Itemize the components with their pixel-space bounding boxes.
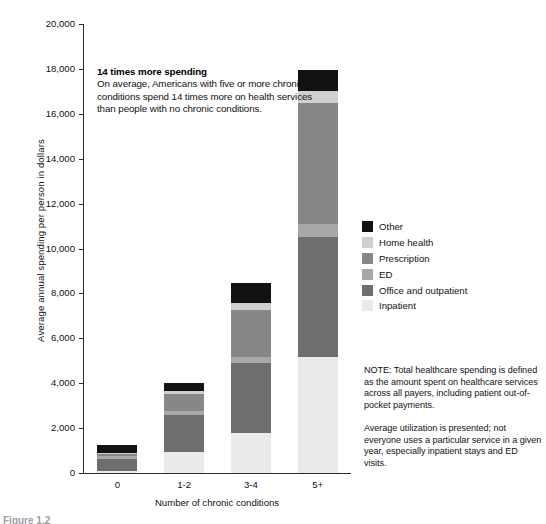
- legend-item-office-and-outpatient: Office and outpatient: [362, 282, 542, 298]
- y-axis-tick: 2,000: [0, 428, 83, 429]
- y-axis-tick-mark: [79, 383, 83, 384]
- y-axis-tick: 16,000: [0, 114, 83, 115]
- bar-segment-other: [231, 283, 271, 303]
- bar-segment-inpatient: [231, 433, 271, 473]
- legend-label: Home health: [379, 237, 433, 248]
- y-axis-tick-label: 16,000: [46, 108, 75, 119]
- legend-item-prescription: Prescription: [362, 251, 542, 267]
- bar-segment-prescription: [298, 103, 338, 224]
- y-axis-tick: 0: [0, 473, 83, 474]
- callout-annotation: 14 times more spending On average, Ameri…: [97, 66, 319, 116]
- legend-item-other: Other: [362, 219, 542, 235]
- bar-segment-inpatient: [298, 357, 338, 473]
- legend-label: Office and outpatient: [379, 285, 467, 296]
- legend-swatch-icon: [362, 221, 373, 232]
- chart-legend: OtherHome healthPrescriptionEDOffice and…: [362, 219, 542, 314]
- bar-segment-office-and-outpatient: [97, 459, 137, 471]
- legend-swatch-icon: [362, 300, 373, 311]
- legend-label: ED: [379, 269, 392, 280]
- y-axis-tick: 20,000: [0, 24, 83, 25]
- y-axis-tick: 12,000: [0, 204, 83, 205]
- bar-segment-ed: [298, 224, 338, 237]
- callout-title: 14 times more spending: [97, 66, 319, 77]
- y-axis-tick-mark: [79, 24, 83, 25]
- y-axis-tick-mark: [79, 204, 83, 205]
- legend-label: Other: [379, 221, 403, 232]
- bar-segment-inpatient: [164, 452, 204, 473]
- x-axis-title: Number of chronic conditions: [83, 497, 351, 508]
- bar-segment-home-health: [164, 391, 204, 394]
- bar-segment-office-and-outpatient: [298, 237, 338, 358]
- y-axis-tick-label: 8,000: [51, 287, 75, 298]
- bar-segment-home-health: [231, 303, 271, 310]
- bar-segment-prescription: [97, 453, 137, 456]
- legend-item-home-health: Home health: [362, 235, 542, 251]
- chart-figure: Average annual spending per person in do…: [0, 0, 546, 524]
- y-axis-tick-label: 2,000: [51, 422, 75, 433]
- y-axis-tick-mark: [79, 159, 83, 160]
- x-axis-tick-label: 3-4: [218, 479, 284, 490]
- y-axis-tick-label: 18,000: [46, 63, 75, 74]
- legend-label: Inpatient: [379, 300, 416, 311]
- y-axis-tick: 8,000: [0, 293, 83, 294]
- x-axis-tick-label: 1-2: [151, 479, 217, 490]
- y-axis-tick-label: 14,000: [46, 153, 75, 164]
- y-axis-tick-label: 12,000: [46, 198, 75, 209]
- y-axis-tick: 18,000: [0, 69, 83, 70]
- x-axis-tick-label: 0: [84, 479, 150, 490]
- legend-item-inpatient: Inpatient: [362, 298, 542, 314]
- y-axis-tick-mark: [79, 69, 83, 70]
- y-axis-tick-label: 6,000: [51, 332, 75, 343]
- bar-segment-office-and-outpatient: [231, 363, 271, 433]
- x-axis-tick-label: 5+: [285, 479, 351, 490]
- legend-swatch-icon: [362, 285, 373, 296]
- y-axis-tick-label: 0: [70, 467, 75, 478]
- legend-swatch-icon: [362, 253, 373, 264]
- y-axis-tick-mark: [79, 114, 83, 115]
- figure-caption: Figure 1.2: [3, 515, 543, 524]
- chart-notes: NOTE: Total healthcare spending is defin…: [364, 365, 542, 469]
- callout-body: On average, Americans with five or more …: [97, 78, 319, 116]
- bar-segment-ed: [164, 411, 204, 415]
- legend-swatch-icon: [362, 237, 373, 248]
- y-axis-tick: 14,000: [0, 159, 83, 160]
- legend-item-ed: ED: [362, 266, 542, 282]
- legend-swatch-icon: [362, 269, 373, 280]
- y-axis-tick-label: 20,000: [46, 18, 75, 29]
- note-paragraph: Average utilization is presented; not ev…: [364, 423, 542, 469]
- x-axis-line: [83, 473, 351, 474]
- y-axis-tick-label: 4,000: [51, 377, 75, 388]
- bar-segment-other: [97, 445, 137, 453]
- y-axis-tick: 10,000: [0, 249, 83, 250]
- bar-segment-ed: [231, 357, 271, 363]
- y-axis-tick: 6,000: [0, 338, 83, 339]
- bar-segment-home-health: [97, 453, 137, 454]
- y-axis-tick: 4,000: [0, 383, 83, 384]
- bar-segment-prescription: [231, 310, 271, 357]
- y-axis-tick-mark: [79, 293, 83, 294]
- bar-segment-prescription: [164, 394, 204, 411]
- bar-segment-office-and-outpatient: [164, 415, 204, 452]
- note-paragraph: NOTE: Total healthcare spending is defin…: [364, 365, 542, 411]
- legend-label: Prescription: [379, 253, 430, 264]
- bar-segment-other: [164, 383, 204, 391]
- y-axis-tick-label: 10,000: [46, 243, 75, 254]
- bar-segment-ed: [97, 456, 137, 458]
- y-axis-tick-mark: [79, 249, 83, 250]
- y-axis-tick-mark: [79, 338, 83, 339]
- y-axis-tick-mark: [79, 428, 83, 429]
